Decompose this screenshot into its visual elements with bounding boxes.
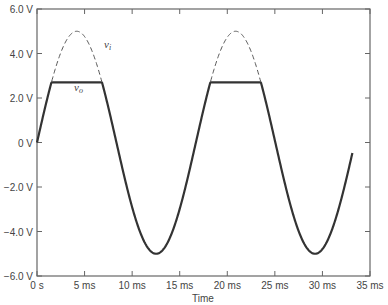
vo-curve <box>37 82 352 253</box>
vi-label: vi <box>104 38 111 52</box>
y-tick-label: 2.0 V <box>10 93 34 104</box>
y-axis: 6.0 V4.0 V2.0 V0 V−2.0 V−4.0 V−6.0 V <box>4 4 370 282</box>
x-tick-label: 10 ms <box>119 280 146 291</box>
x-axis-label: Time <box>192 293 214 304</box>
y-tick-label: 6.0 V <box>10 4 34 15</box>
y-tick-label: 0 V <box>18 138 33 149</box>
x-tick-label: 20 ms <box>214 280 241 291</box>
x-tick-label: 30 ms <box>309 280 336 291</box>
y-tick-label: −6.0 V <box>4 271 34 282</box>
x-tick-label: 35 ms <box>356 280 383 291</box>
x-tick-label: 25 ms <box>261 280 288 291</box>
vi-curve <box>52 31 261 81</box>
plot-frame <box>37 9 370 276</box>
y-tick-label: −2.0 V <box>4 182 34 193</box>
y-tick-label: −4.0 V <box>4 227 34 238</box>
chart: 0 s5 ms10 ms15 ms20 ms25 ms30 ms35 ms 6.… <box>0 0 388 305</box>
x-axis: 0 s5 ms10 ms15 ms20 ms25 ms30 ms35 ms <box>30 9 383 291</box>
x-tick-label: 5 ms <box>74 280 96 291</box>
x-tick-label: 15 ms <box>166 280 193 291</box>
y-tick-label: 4.0 V <box>10 49 34 60</box>
